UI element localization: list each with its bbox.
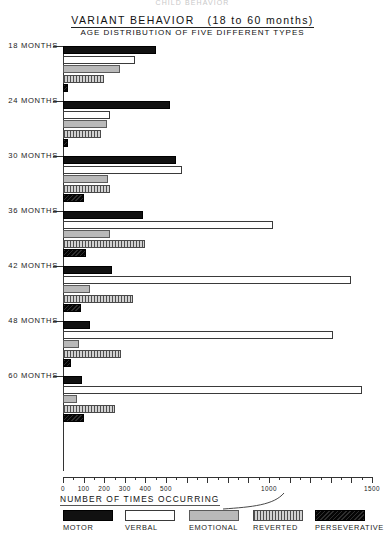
bar-motor [63,211,143,219]
x-axis-tick [351,477,352,483]
group-label: 48 MONTHS [8,316,58,325]
bar-motor [63,266,112,274]
chart-title-text: VARIANT BEHAVIOR [71,14,194,26]
bar-reverted [63,405,115,413]
bar-perseverative [63,139,68,147]
legend-item-verbal: VERBAL [125,510,175,532]
bar-verbal [63,221,273,229]
legend-swatch-emotional [189,510,239,521]
x-axis-tick [125,477,126,483]
bar-emotional [63,230,110,238]
legend: MOTORVERBALEMOTIONALREVERTEDPERSEVERATIV… [63,510,375,540]
x-axis-tick [94,477,95,480]
group-label: 36 MONTHS [8,206,58,215]
group-label: 60 MONTHS [8,371,58,380]
legend-label-reverted: REVERTED [253,523,303,532]
legend-swatch-motor [63,510,113,521]
legend-item-perseverative: PERSEVERATIVE [315,510,384,532]
bar-motor [63,321,90,329]
x-axis-title: NUMBER OF TIMES OCCURRING [60,494,220,506]
x-axis-tick [341,477,342,480]
bar-motor [63,156,176,164]
bar-reverted [63,295,133,303]
x-axis-tick-label: 1000 [261,485,277,492]
bar-motor [63,376,82,384]
x-axis-tick [238,477,239,480]
x-axis-tick [331,477,332,483]
group-label: 42 MONTHS [8,261,58,270]
bar-perseverative [63,359,71,367]
legend-swatch-verbal [125,510,175,521]
bar-emotional [63,120,107,128]
pointer-curve-icon [222,492,292,510]
x-axis-tick [218,477,219,480]
x-axis-tick [290,477,291,483]
x-axis-tick [269,477,270,483]
legend-label-verbal: VERBAL [125,523,175,532]
plot-area: 18 MONTHS24 MONTHS30 MONTHS36 MONTHS42 M… [63,46,372,471]
x-axis-tick [321,477,322,480]
x-axis-tick [104,477,105,483]
bar-reverted [63,240,145,248]
bar-reverted [63,185,110,193]
x-axis-tick-label: 0 [61,485,65,492]
bar-reverted [63,350,121,358]
group-label: 24 MONTHS [8,96,58,105]
legend-item-motor: MOTOR [63,510,113,532]
bar-verbal [63,166,182,174]
chart-subtitle: AGE DISTRIBUTION OF FIVE DIFFERENT TYPES [0,28,385,37]
bar-perseverative [63,194,84,202]
bar-perseverative [63,84,68,92]
x-axis-tick [135,477,136,480]
group-label: 30 MONTHS [8,151,58,160]
bar-verbal [63,111,110,119]
legend-label-emotional: EMOTIONAL [189,523,239,532]
x-axis-tick [166,477,167,483]
bar-emotional [63,65,120,73]
bar-verbal [63,276,351,284]
page-running-head: CHILD BEHAVIOR [0,0,385,6]
x-axis-tick [73,477,74,480]
x-axis-tick-label: 500 [160,485,172,492]
legend-item-emotional: EMOTIONAL [189,510,239,532]
bar-motor [63,46,156,54]
legend-swatch-reverted [253,510,303,521]
x-axis-tick [145,477,146,483]
x-axis-tick [372,477,373,483]
x-axis-tick-label: 200 [98,485,110,492]
x-axis-tick-label: 400 [139,485,151,492]
x-axis-tick [187,477,188,483]
legend-swatch-perseverative [315,510,365,521]
x-axis-tick [115,477,116,480]
bar-reverted [63,130,101,138]
bar-verbal [63,386,362,394]
group-label: 18 MONTHS [8,41,58,50]
chart-page: CHILD BEHAVIOR VARIANT BEHAVIOR (18 to 6… [0,0,385,542]
chart-title: VARIANT BEHAVIOR (18 to 60 months) [0,14,385,26]
chart-title-range: (18 to 60 months) [208,14,314,26]
x-axis-tick [259,477,260,480]
x-axis-tick [310,477,311,483]
x-axis-tick-label: 1500 [364,485,380,492]
bar-emotional [63,395,77,403]
x-axis-tick [84,477,85,483]
x-axis-tick-label: 100 [78,485,90,492]
bar-perseverative [63,304,81,312]
x-axis-tick [207,477,208,483]
bar-verbal [63,56,135,64]
x-axis-tick [228,477,229,483]
legend-item-reverted: REVERTED [253,510,303,532]
x-axis-tick [248,477,249,483]
legend-label-perseverative: PERSEVERATIVE [315,523,384,532]
bar-motor [63,101,170,109]
bar-perseverative [63,414,84,422]
bar-verbal [63,331,333,339]
x-axis-tick [176,477,177,480]
x-axis-tick [300,477,301,480]
bar-emotional [63,340,79,348]
x-axis-tick-label: 300 [119,485,131,492]
legend-label-motor: MOTOR [63,523,113,532]
x-axis-tick [197,477,198,480]
bar-perseverative [63,249,86,257]
x-axis-tick [279,477,280,480]
